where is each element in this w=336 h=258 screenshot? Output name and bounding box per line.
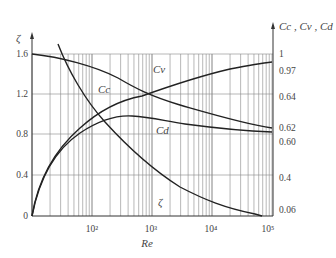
grid-lines [32,54,273,216]
svg-text:10⁴: 10⁴ [205,224,219,234]
svg-text:10²: 10² [86,224,99,234]
svg-text:10³: 10³ [145,224,158,234]
svg-text:0.4: 0.4 [279,173,291,183]
svg-text:0.60: 0.60 [279,137,296,147]
right-tick-labels: 1 0.97 0.64 0.62 0.60 0.4 0.06 [279,49,296,215]
svg-text:1.6: 1.6 [16,49,28,59]
left-axis-arrow-icon [30,32,34,39]
right-axis-arrow-icon [271,22,275,29]
svg-text:0.4: 0.4 [16,170,28,180]
cv-label: Cv [153,63,165,75]
svg-text:1.2: 1.2 [16,89,28,99]
left-axis-label: ζ [16,32,22,45]
svg-text:0.97: 0.97 [279,66,296,76]
svg-text:0.62: 0.62 [279,123,296,133]
x-axis-label: Re [140,237,153,249]
chart: ζ 1.6 1.2 0.8 0.4 0 Cc , Cv , Cd 1 0.97 … [0,0,336,258]
svg-text:0.8: 0.8 [16,129,28,139]
svg-text:0.64: 0.64 [279,92,296,102]
svg-text:0: 0 [23,211,28,221]
svg-text:10⁵: 10⁵ [262,224,275,234]
left-tick-labels: 1.6 1.2 0.8 0.4 0 [16,49,28,221]
svg-text:1: 1 [279,49,284,59]
cd-label: Cd [156,124,169,136]
cc-label: Cc [98,83,110,95]
x-tick-labels: 10² 10³ 10⁴ 10⁵ [86,224,275,234]
right-axis-label: Cc , Cv , Cd [279,20,333,32]
zeta-curve-label: ζ [158,196,164,209]
svg-text:0.06: 0.06 [279,205,296,215]
